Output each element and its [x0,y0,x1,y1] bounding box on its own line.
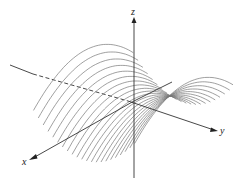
surface-curve [62,81,162,147]
y-axis-label: y [219,125,225,136]
surface-curve [87,95,187,161]
saddle-surface-figure: z y x [0,0,233,189]
x-axis-label: x [21,156,27,167]
z-axis-arrowhead [132,17,137,23]
y-axis [128,101,214,130]
surface-curves [34,44,234,162]
x-axis [33,101,134,158]
surface-curve [58,76,158,142]
z-axis-label: z [130,6,135,17]
x-axis-arrowhead [29,154,38,160]
y-axis-arrowhead [210,128,218,133]
y-axis-back-solid [10,65,33,74]
